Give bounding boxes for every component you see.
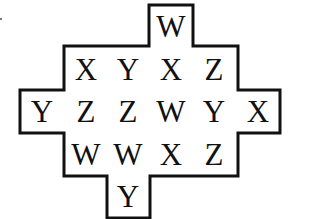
cell-r2-c3: W	[151, 92, 191, 132]
cell-r1-c2: X	[151, 50, 191, 90]
cell-r4-c0: Y	[108, 177, 148, 217]
cell-r1-c1: Y	[108, 50, 148, 90]
cell-r2-c4: Y	[194, 92, 234, 132]
cell-r2-c1: Z	[66, 92, 106, 132]
cell-r2-c0: Y	[22, 92, 62, 132]
cell-r1-c0: X	[66, 50, 106, 90]
cell-r0-c0: W	[151, 7, 191, 47]
cell-r3-c0: W	[66, 135, 106, 175]
cell-r2-c5: X	[238, 92, 278, 132]
cell-r3-c2: X	[151, 135, 191, 175]
cell-r1-c3: Z	[194, 50, 234, 90]
cell-r2-c2: Z	[108, 92, 148, 132]
cell-r3-c1: W	[108, 135, 148, 175]
cell-r3-c3: Z	[194, 135, 234, 175]
